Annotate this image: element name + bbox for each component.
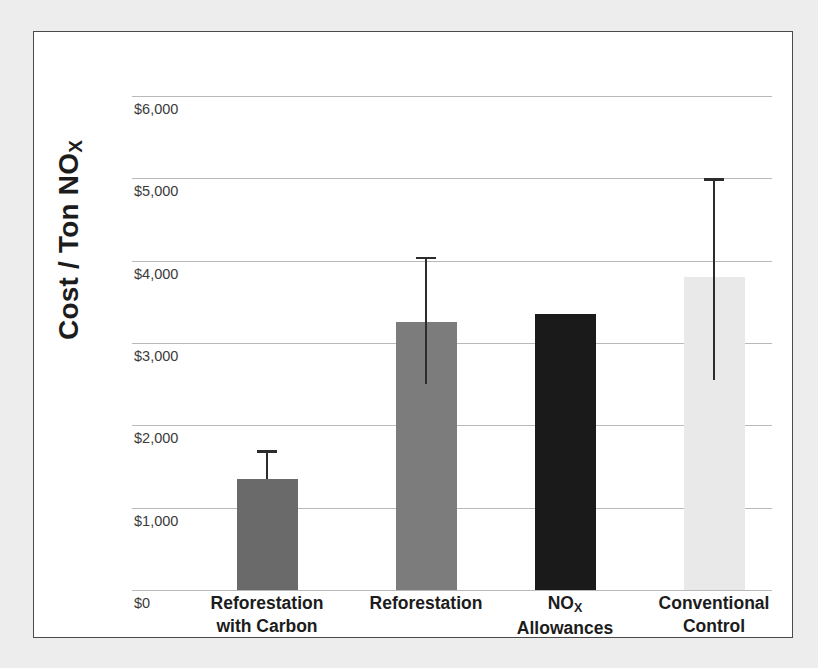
y-axis-title-subscript: X	[65, 140, 86, 153]
x-category-label-line: Allowances	[485, 617, 645, 640]
bar[interactable]	[237, 479, 298, 590]
x-category-label-line: NOX	[485, 592, 645, 617]
chart-page: Cost / Ton NOX $0$1,000$2,000$3,000$4,00…	[0, 0, 818, 668]
plot-area: $0$1,000$2,000$3,000$4,000$5,000$6,000	[132, 34, 772, 634]
x-category-label-line: Control	[634, 615, 794, 638]
error-bar-cap	[416, 257, 436, 260]
error-bar-cap	[704, 178, 724, 181]
x-category-label-line: with Carbon	[187, 615, 347, 638]
x-axis-category-labels: Reforestationwith CarbonReforestationNOX…	[132, 592, 772, 662]
x-category-label-line: Reforestation	[346, 592, 506, 615]
x-category-label: Reforestation	[346, 592, 506, 615]
x-category-label: ConventionalControl	[634, 592, 794, 638]
error-bar-cap	[257, 450, 277, 453]
y-axis-title: Cost / Ton NOX	[49, 75, 89, 405]
bar[interactable]	[535, 314, 596, 590]
chart-frame: Cost / Ton NOX $0$1,000$2,000$3,000$4,00…	[33, 31, 793, 638]
x-category-label-subscript: X	[574, 601, 582, 615]
x-category-label: NOXAllowances	[485, 592, 645, 640]
x-category-label-line: Conventional	[634, 592, 794, 615]
error-bar-line	[713, 178, 715, 380]
x-category-label: Reforestationwith Carbon	[187, 592, 347, 638]
x-category-label-line: Reforestation	[187, 592, 347, 615]
error-bar-line	[266, 450, 268, 479]
bars-layer	[132, 34, 772, 634]
y-axis-title-text: Cost / Ton NO	[53, 153, 84, 340]
error-bar-line	[425, 257, 427, 385]
